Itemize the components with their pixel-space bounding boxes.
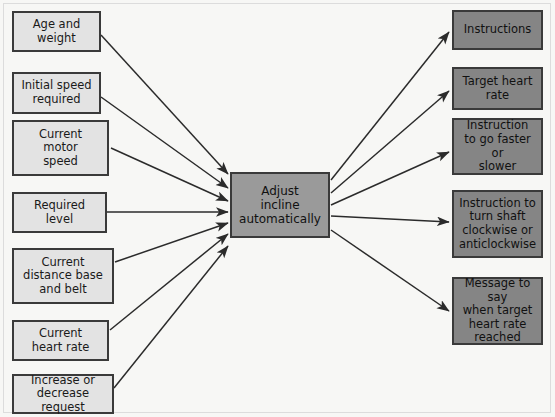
- input-node-current-heart-rate[interactable]: Current heart rate: [12, 320, 109, 361]
- process-label-line2: incline: [235, 198, 325, 212]
- input-label-line1: Increase or: [17, 374, 109, 388]
- output-node-target-heart-rate[interactable]: Target heart rate: [452, 67, 543, 110]
- input-label-line1: Required: [17, 199, 102, 213]
- output-label-line3: heart rate: [457, 318, 538, 332]
- input-label-line2: level: [17, 213, 102, 227]
- output-label-line1: Target heart: [457, 75, 538, 89]
- input-label-line2: required: [17, 93, 96, 107]
- output-node-instruction-go-faster-or-slower[interactable]: Instruction to go faster or slower: [452, 118, 543, 175]
- input-label-line2: heart rate: [17, 341, 104, 355]
- output-label-line1: Instruction: [457, 119, 538, 133]
- output-label-line1: Instruction to: [457, 197, 538, 211]
- output-label-line3: slower: [457, 160, 538, 174]
- output-label-line1: Instructions: [457, 23, 538, 37]
- input-label-line2: decrease request: [17, 387, 109, 414]
- output-label-line4: reached: [457, 331, 538, 345]
- arrow-input-age-and-weight: [101, 35, 228, 174]
- output-label-line3: clockwise or: [457, 224, 538, 238]
- input-label-line1: Current: [17, 128, 104, 142]
- arrow-output-message-target-heart-rate-reached: [331, 230, 449, 311]
- input-label-line1: Initial speed: [17, 79, 96, 93]
- output-label-line2: rate: [457, 89, 538, 103]
- output-node-instruction-turn-shaft[interactable]: Instruction to turn shaft clockwise or a…: [452, 190, 543, 258]
- output-label-line4: anticlockwise: [457, 238, 538, 252]
- arrow-input-increase-or-decrease-request: [114, 246, 228, 388]
- input-label-line3: speed: [17, 155, 104, 169]
- input-node-current-distance-base-and-belt[interactable]: Current distance base and belt: [12, 248, 114, 304]
- input-label-line2: distance base: [17, 269, 109, 283]
- output-node-message-target-heart-rate-reached[interactable]: Message to say when target heart rate re…: [452, 277, 543, 345]
- input-node-increase-or-decrease-request[interactable]: Increase or decrease request: [12, 374, 114, 414]
- input-label-line1: Current: [17, 327, 104, 341]
- arrow-input-current-distance-base-and-belt: [115, 223, 228, 262]
- input-label-line2: motor: [17, 141, 104, 155]
- output-label-line2: turn shaft: [457, 210, 538, 224]
- input-label-line3: and belt: [17, 283, 109, 297]
- output-label-line2: to go faster or: [457, 133, 538, 160]
- arrow-input-initial-speed-required: [101, 97, 228, 188]
- output-label-line2: when target: [457, 304, 538, 318]
- arrow-input-current-heart-rate: [110, 234, 228, 330]
- process-node-adjust-incline-automatically[interactable]: Adjust incline automatically: [230, 172, 330, 238]
- output-label-line1: Message to say: [457, 277, 538, 304]
- input-label-line1: Current: [17, 256, 109, 270]
- input-label-line2: weight: [17, 32, 96, 46]
- process-label-line3: automatically: [235, 212, 325, 226]
- input-node-age-and-weight[interactable]: Age and weight: [12, 11, 101, 52]
- arrow-output-instruction-turn-shaft: [331, 216, 449, 222]
- input-label-line1: Age and: [17, 18, 96, 32]
- output-node-instructions[interactable]: Instructions: [452, 10, 543, 50]
- input-node-required-level[interactable]: Required level: [12, 192, 107, 233]
- input-node-current-motor-speed[interactable]: Current motor speed: [12, 120, 109, 176]
- process-label-line1: Adjust: [235, 184, 325, 198]
- input-node-initial-speed-required[interactable]: Initial speed required: [12, 72, 101, 114]
- diagram-canvas: Age and weight Initial speed required Cu…: [0, 0, 555, 417]
- arrow-input-current-motor-speed: [111, 148, 228, 201]
